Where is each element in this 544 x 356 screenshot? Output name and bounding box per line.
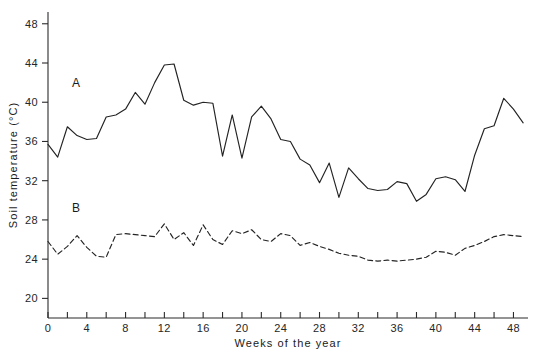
chart-figure: 2024283236404448 04812162024283236404448… <box>0 0 544 356</box>
y-tick-label: 20 <box>25 292 38 304</box>
y-tick-label: 40 <box>25 96 38 108</box>
series-a-line <box>48 64 523 201</box>
series-b-label: B <box>72 201 80 215</box>
x-tick-label: 8 <box>122 322 129 334</box>
y-axis-ticks <box>42 24 48 299</box>
y-tick-label: 36 <box>25 135 38 147</box>
x-tick-label: 24 <box>274 322 287 334</box>
series-b-line <box>48 224 523 261</box>
x-tick-label: 48 <box>507 322 520 334</box>
x-tick-label: 40 <box>429 322 442 334</box>
x-axis-title: Weeks of the year <box>234 337 341 349</box>
y-tick-label: 48 <box>25 18 38 30</box>
x-tick-label: 32 <box>352 322 365 334</box>
x-tick-label: 0 <box>45 322 52 334</box>
y-tick-label: 28 <box>25 214 38 226</box>
x-tick-label: 28 <box>313 322 326 334</box>
x-axis-ticks <box>48 312 513 318</box>
line-chart-plot: 2024283236404448 04812162024283236404448… <box>0 0 544 356</box>
x-tick-label: 4 <box>84 322 91 334</box>
y-tick-label: 24 <box>25 253 38 265</box>
y-axis-title: Soil temperature (°C) <box>7 102 19 229</box>
x-tick-label: 36 <box>391 322 404 334</box>
x-axis-tick-labels: 04812162024283236404448 <box>45 322 520 334</box>
series-a-label: A <box>72 76 80 90</box>
y-tick-label: 32 <box>25 175 38 187</box>
x-tick-label: 44 <box>468 322 481 334</box>
x-tick-label: 16 <box>197 322 210 334</box>
y-tick-label: 44 <box>25 57 38 69</box>
y-axis-tick-labels: 2024283236404448 <box>25 18 38 305</box>
x-tick-label: 12 <box>158 322 171 334</box>
x-tick-label: 20 <box>235 322 248 334</box>
